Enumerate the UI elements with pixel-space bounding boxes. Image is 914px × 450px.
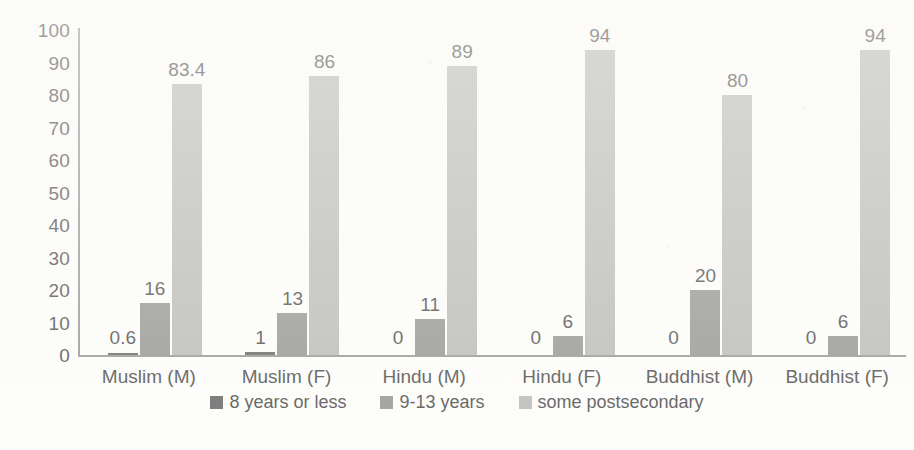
bar-group: 0694 bbox=[493, 30, 631, 355]
y-tick-label: 100 bbox=[8, 21, 70, 40]
y-tick-label: 40 bbox=[8, 216, 70, 235]
bar bbox=[860, 50, 890, 356]
x-category-label: Muslim (M) bbox=[80, 366, 218, 388]
y-tick-label: 10 bbox=[8, 314, 70, 333]
bar bbox=[553, 336, 583, 356]
x-axis-line bbox=[78, 355, 906, 357]
y-tick-label: 60 bbox=[8, 151, 70, 170]
y-tick-label: 80 bbox=[8, 86, 70, 105]
bar-value-label: 80 bbox=[710, 71, 764, 90]
legend-item[interactable]: some postsecondary bbox=[519, 392, 704, 412]
bar bbox=[722, 95, 752, 355]
bar-group: 0694 bbox=[768, 30, 906, 355]
bar-group: 0.61683.4 bbox=[80, 30, 218, 355]
bar bbox=[447, 66, 477, 355]
x-category-label: Hindu (F) bbox=[493, 366, 631, 388]
legend-swatch-icon bbox=[519, 396, 532, 409]
bar bbox=[415, 319, 445, 355]
bar bbox=[172, 84, 202, 355]
y-tick-label: 90 bbox=[8, 54, 70, 73]
chart-legend: 8 years or less9-13 yearssome postsecond… bbox=[0, 392, 914, 412]
bar bbox=[140, 303, 170, 355]
bar bbox=[245, 352, 275, 355]
plot-area: 0.61683.411386011890694020800694 bbox=[80, 30, 906, 355]
bar bbox=[690, 290, 720, 355]
bar bbox=[309, 76, 339, 356]
legend-item[interactable]: 8 years or less bbox=[210, 392, 346, 412]
y-tick-label: 70 bbox=[8, 119, 70, 138]
bar bbox=[585, 50, 615, 356]
x-axis-category-labels: Muslim (M)Muslim (F)Hindu (M)Hindu (F)Bu… bbox=[80, 366, 906, 394]
bar-value-label: 89 bbox=[435, 42, 489, 61]
bar bbox=[828, 336, 858, 356]
y-axis-tick-labels: 1009080706050403020100 bbox=[8, 18, 70, 363]
bar-value-label: 83.4 bbox=[160, 60, 214, 79]
bar-value-label: 86 bbox=[297, 52, 351, 71]
y-tick-label: 30 bbox=[8, 249, 70, 268]
bar bbox=[277, 313, 307, 355]
bar-chart: 1009080706050403020100 0.61683.411386011… bbox=[0, 0, 914, 450]
bar-group: 11386 bbox=[218, 30, 356, 355]
y-tick-label: 0 bbox=[8, 346, 70, 365]
legend-label: 9-13 years bbox=[399, 392, 484, 412]
bar-group: 02080 bbox=[631, 30, 769, 355]
bar bbox=[108, 353, 138, 355]
bar-value-label: 94 bbox=[573, 26, 627, 45]
legend-label: 8 years or less bbox=[229, 392, 346, 412]
legend-swatch-icon bbox=[210, 396, 223, 409]
x-category-label: Muslim (F) bbox=[218, 366, 356, 388]
legend-swatch-icon bbox=[380, 396, 393, 409]
y-tick-label: 50 bbox=[8, 184, 70, 203]
x-category-label: Buddhist (F) bbox=[768, 366, 906, 388]
legend-label: some postsecondary bbox=[538, 392, 704, 412]
x-category-label: Buddhist (M) bbox=[631, 366, 769, 388]
legend-item[interactable]: 9-13 years bbox=[380, 392, 484, 412]
y-tick-label: 20 bbox=[8, 281, 70, 300]
bar-group: 01189 bbox=[355, 30, 493, 355]
bar-value-label: 94 bbox=[848, 26, 902, 45]
x-category-label: Hindu (M) bbox=[355, 366, 493, 388]
